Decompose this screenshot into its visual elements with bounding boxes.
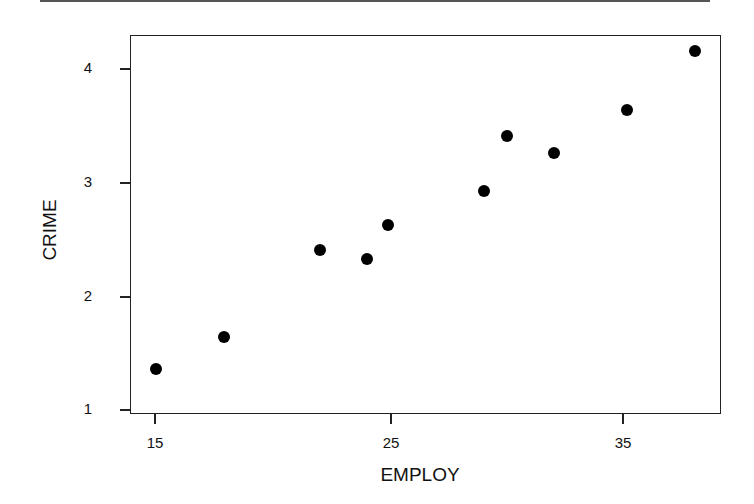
x-tick-25 <box>390 414 392 424</box>
x-axis-title: EMPLOY <box>330 464 510 486</box>
y-tick-2 <box>120 296 130 298</box>
x-tick-15 <box>154 414 156 424</box>
y-tick-4 <box>120 68 130 70</box>
data-point <box>501 130 513 142</box>
data-point <box>478 185 490 197</box>
x-tick-label: 25 <box>371 434 411 451</box>
x-tick-label: 35 <box>603 434 643 451</box>
data-point <box>382 219 394 231</box>
data-point <box>314 244 326 256</box>
x-tick-35 <box>622 414 624 424</box>
data-point <box>150 363 162 375</box>
y-tick-3 <box>120 182 130 184</box>
data-point <box>689 45 701 57</box>
top-rule <box>40 0 710 2</box>
y-tick-label: 3 <box>78 173 98 190</box>
y-tick-label: 1 <box>78 400 98 417</box>
y-tick-1 <box>120 409 130 411</box>
y-tick-label: 2 <box>78 287 98 304</box>
y-axis-title: CRIME <box>39 199 61 260</box>
plot-area <box>130 35 721 414</box>
x-tick-label: 15 <box>135 434 175 451</box>
data-point <box>621 104 633 116</box>
data-point <box>361 253 373 265</box>
data-point <box>548 147 560 159</box>
data-point <box>218 331 230 343</box>
y-tick-label: 4 <box>78 59 98 76</box>
